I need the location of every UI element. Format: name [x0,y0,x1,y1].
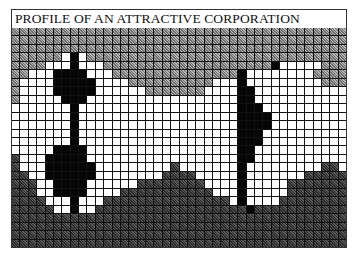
grid-cell [62,223,69,230]
grid-cell [121,79,128,86]
grid-cell [154,28,161,35]
grid-cell [104,104,111,111]
grid-cell [171,146,178,153]
grid-cell [104,231,111,238]
grid-cell [213,138,220,145]
grid-cell [79,121,86,128]
grid-cell [37,130,44,137]
grid-cell [46,206,53,213]
grid-cell [247,180,254,187]
grid-cell [314,62,321,69]
grid-cell [29,53,36,60]
grid-cell [79,146,86,153]
grid-cell [121,231,128,238]
grid-cell [154,53,161,60]
grid-cell [221,36,228,43]
grid-cell [20,138,27,145]
grid-cell [121,62,128,69]
grid-cell [238,45,245,52]
grid-cell [288,70,295,77]
grid-cell [272,223,279,230]
grid-cell [247,87,254,94]
grid-cell [71,189,78,196]
grid-cell [263,206,270,213]
grid-cell [54,53,61,60]
grid-cell [29,240,36,247]
grid-cell [314,189,321,196]
grid-cell [12,79,19,86]
grid-cell [20,214,27,221]
grid-cell [146,146,153,153]
grid-cell [247,130,254,137]
grid-cell [288,87,295,94]
grid-cell [247,96,254,103]
grid-cell [188,79,195,86]
grid-cell [154,163,161,170]
grid-cell [113,130,120,137]
grid-cell [46,130,53,137]
grid-cell [146,172,153,179]
grid-cell [104,79,111,86]
grid-cell [205,130,212,137]
grid-cell [205,189,212,196]
grid-cell [163,130,170,137]
grid-cell [146,87,153,94]
grid-cell [339,113,346,120]
grid-cell [121,130,128,137]
grid-cell [314,240,321,247]
grid-cell [138,155,145,162]
grid-cell [146,121,153,128]
grid-cell [247,138,254,145]
grid-cell [213,53,220,60]
grid-cell [205,36,212,43]
grid-cell [12,189,19,196]
grid-cell [205,113,212,120]
grid-cell [205,70,212,77]
grid-cell [297,231,304,238]
grid-cell [146,62,153,69]
grid-cell [37,87,44,94]
grid-cell [138,180,145,187]
grid-cell [247,79,254,86]
grid-cell [280,223,287,230]
grid-cell [272,163,279,170]
grid-cell [62,231,69,238]
grid-cell [20,172,27,179]
grid-cell [230,130,237,137]
grid-cell [54,113,61,120]
grid-cell [46,53,53,60]
grid-cell [138,214,145,221]
grid-cell [163,36,170,43]
grid-cell [305,62,312,69]
grid-cell [339,104,346,111]
grid-cell [87,130,94,137]
grid-cell [79,62,86,69]
grid-cell [205,104,212,111]
grid-cell [12,36,19,43]
grid-cell [339,206,346,213]
grid-cell [87,79,94,86]
grid-cell [305,223,312,230]
grid-cell [297,223,304,230]
grid-cell [213,96,220,103]
grid-cell [171,155,178,162]
grid-cell [322,155,329,162]
grid-cell [255,113,262,120]
grid-cell [305,45,312,52]
grid-cell [37,189,44,196]
grid-cell [79,240,86,247]
grid-cell [29,87,36,94]
grid-cell [322,130,329,137]
grid-cell [87,163,94,170]
grid-cell [221,163,228,170]
grid-cell [314,155,321,162]
grid-cell [280,113,287,120]
grid-cell [138,28,145,35]
grid-cell [37,113,44,120]
grid-cell [230,96,237,103]
grid-cell [20,240,27,247]
grid-cell [71,223,78,230]
grid-cell [280,197,287,204]
grid-cell [213,36,220,43]
grid-cell [12,28,19,35]
